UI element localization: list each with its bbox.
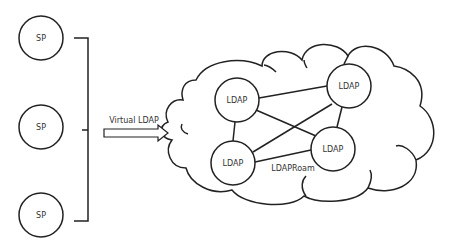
- ldap-label-3: LDAP: [223, 159, 244, 168]
- sp-label-3: SP: [36, 211, 46, 220]
- diagram-canvas: [0, 0, 454, 249]
- ldaproam-label: LDAPRoam: [271, 164, 315, 173]
- virtual-ldap-arrow: [104, 125, 168, 141]
- ldap-label-4: LDAP: [323, 145, 344, 154]
- sp-label-1: SP: [36, 34, 46, 43]
- bracket: [74, 38, 88, 221]
- virtual-ldap-label: Virtual LDAP: [109, 116, 158, 125]
- sp-label-2: SP: [36, 123, 46, 132]
- ldap-label-2: LDAP: [339, 82, 360, 91]
- ldap-label-1: LDAP: [227, 96, 248, 105]
